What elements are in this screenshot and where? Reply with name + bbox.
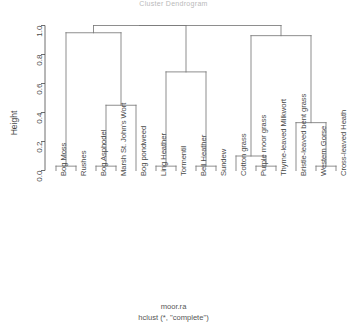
dendrogram-tree bbox=[56, 26, 336, 171]
leaf-label: Bog Asphodel bbox=[99, 130, 108, 176]
leaf-label: Cotton grass bbox=[239, 134, 248, 176]
leaf-label: Rushes bbox=[79, 151, 88, 176]
y-axis-label: Height bbox=[9, 93, 19, 153]
leaf-label: Bog Moss bbox=[59, 143, 68, 176]
leaf-label: Ling Heather bbox=[159, 133, 168, 176]
leaf-label: Cross-leaved Heath bbox=[339, 110, 347, 176]
leaf-label: Bell Heather bbox=[199, 135, 208, 176]
leaf-label: Bristle-leaved bent grass bbox=[299, 94, 308, 176]
leaf-label: Marsh St. John's Wort bbox=[119, 103, 128, 176]
leaf-label: Western Gorse bbox=[319, 126, 328, 176]
leaf-label: Bog pondweed bbox=[139, 126, 148, 176]
leaf-label: Sundew bbox=[219, 149, 228, 176]
dendrogram-plot bbox=[0, 0, 347, 332]
leaf-label: Purple moor grass bbox=[259, 115, 268, 176]
y-tick-label: 1.0 bbox=[35, 25, 44, 59]
x-axis-label-dataset: moor.ra bbox=[0, 302, 347, 311]
leaf-label: Tormentil bbox=[179, 146, 188, 176]
leaf-label: Thyme-leaved Milkwort bbox=[279, 99, 288, 176]
x-axis-label-method: hclust (*, "complete") bbox=[0, 313, 347, 322]
